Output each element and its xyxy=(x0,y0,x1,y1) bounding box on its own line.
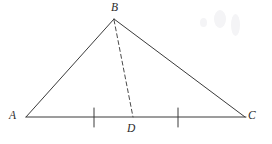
segment-bd-cevian xyxy=(114,20,133,117)
vertex-label-a: A xyxy=(9,110,16,122)
segment-bc xyxy=(114,19,245,117)
geometry-diagram: A B C D xyxy=(0,0,272,144)
triangle-svg xyxy=(0,0,272,144)
segment-ab xyxy=(26,19,114,117)
vertex-label-c: C xyxy=(248,110,256,122)
vertex-label-d: D xyxy=(127,123,135,135)
vertex-label-b: B xyxy=(111,2,118,14)
